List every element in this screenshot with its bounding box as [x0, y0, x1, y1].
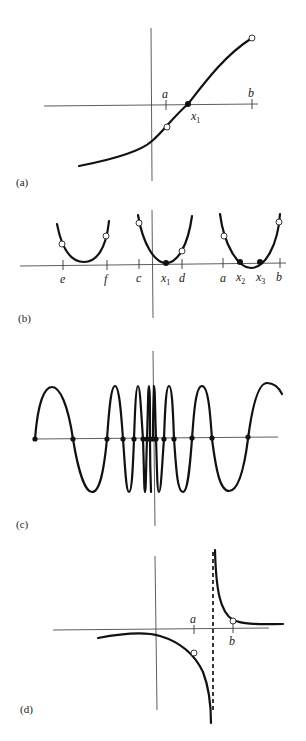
x-axis — [53, 628, 269, 630]
parabola-left — [57, 221, 109, 262]
endpoint-open-circle — [136, 220, 142, 226]
tick-label-c: c — [136, 271, 142, 285]
tick-label-f: f — [104, 272, 109, 286]
endpoint-open-circle — [276, 219, 282, 225]
tick-label-b: b — [229, 634, 235, 648]
endpoint-open-circle — [59, 241, 65, 247]
root-dot-x1 — [163, 260, 169, 266]
root-dot-x2 — [237, 259, 243, 265]
tick-label-a: a — [220, 271, 226, 285]
panel-label-b: (b) — [18, 312, 31, 325]
endpoint-open-circle — [191, 650, 197, 656]
tick-label-d: d — [179, 271, 186, 285]
tick-label-b: b — [248, 86, 254, 100]
parabola-right — [220, 214, 280, 268]
tick-label-a: a — [190, 612, 196, 626]
y-axis — [151, 28, 152, 181]
root-dot — [185, 101, 191, 107]
panel-label-d: (d) — [20, 703, 33, 716]
endpoint-open-circle — [103, 233, 109, 239]
endpoint-open-circle — [164, 124, 170, 130]
panel-d: a b (d) — [20, 550, 283, 723]
endpoint-open-circle — [230, 618, 236, 624]
tick-label-b: b — [276, 270, 282, 284]
panel-c: (c) — [16, 351, 282, 531]
root-label-x1: x1 — [190, 109, 200, 125]
right-branch — [215, 550, 283, 624]
tick-label-a: a — [162, 87, 168, 101]
x-axis — [20, 263, 286, 266]
panel-label-c: (c) — [16, 518, 29, 531]
y-axis — [155, 556, 157, 710]
function-curve — [79, 38, 252, 166]
figure-canvas: a b x1 (a) e f c d a b x1 x2 x3 (b — [0, 0, 306, 741]
endpoint-open-circle — [221, 233, 227, 239]
endpoint-open-circle — [179, 248, 185, 254]
tick-label-e: e — [60, 272, 66, 286]
y-axis — [152, 210, 153, 318]
endpoint-open-circle — [249, 35, 255, 41]
x-axis — [44, 104, 258, 106]
parabola-middle — [138, 215, 192, 263]
left-branch — [98, 634, 211, 723]
root-dot-x3 — [257, 259, 263, 265]
root-label-x2: x2 — [235, 270, 245, 286]
root-label-x1: x1 — [160, 271, 170, 287]
root-label-x3: x3 — [255, 270, 265, 286]
root-dots — [32, 434, 250, 441]
panel-label-a: (a) — [16, 176, 29, 189]
panel-b: e f c d a b x1 x2 x3 (b) — [18, 210, 286, 325]
panel-a: a b x1 (a) — [16, 28, 258, 189]
